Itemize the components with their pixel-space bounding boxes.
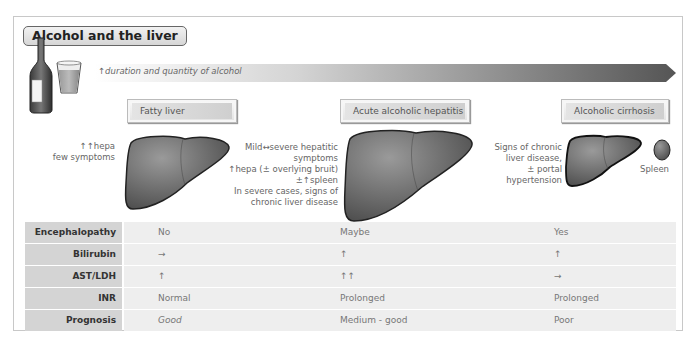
cell-hepatitis: Maybe	[336, 222, 550, 243]
cell-fatty: ↑	[124, 266, 336, 287]
row-label: AST/LDH	[25, 266, 122, 287]
glass-icon	[56, 60, 82, 96]
arrow-label: ↑duration and quantity of alcohol	[98, 66, 242, 76]
row-label: Prognosis	[25, 310, 122, 331]
cell-cirrhosis: →	[550, 266, 676, 287]
fatty-liver-notes: ↑↑hepa few symptoms	[40, 141, 115, 163]
cell-hepatitis: ↑	[336, 244, 550, 265]
table-row: Bilirubin → ↑ ↑	[25, 244, 676, 265]
acute-hepatitis-liver-icon	[342, 127, 476, 223]
acute-hepatitis-notes: Mild↔severe hepatitic symptoms ↑hepa (± …	[228, 142, 338, 208]
spleen-icon	[652, 138, 672, 162]
row-label: Encephalopathy	[25, 222, 122, 243]
wine-bottle-icon	[28, 36, 54, 114]
cirrhosis-liver-icon	[564, 133, 644, 188]
cell-hepatitis: ↑↑	[336, 266, 550, 287]
stage-acute-hepatitis: Acute alcoholic hepatitis	[340, 99, 470, 123]
fatty-liver-icon	[123, 133, 233, 211]
cirrhosis-notes: Signs of chronic liver disease, ± portal…	[480, 142, 562, 186]
cell-cirrhosis: Prolonged	[550, 288, 676, 309]
cell-hepatitis: Prolonged	[336, 288, 550, 309]
comparison-table: Encephalopathy No Maybe Yes Bilirubin → …	[25, 222, 676, 332]
table-row: AST/LDH ↑ ↑↑ →	[25, 266, 676, 287]
cell-fatty: No	[124, 222, 336, 243]
cell-cirrhosis: ↑	[550, 244, 676, 265]
cell-cirrhosis: Poor	[550, 310, 676, 331]
cell-fatty: →	[124, 244, 336, 265]
table-row: Encephalopathy No Maybe Yes	[25, 222, 676, 243]
spleen-label: Spleen	[640, 164, 674, 175]
stage-fatty-liver: Fatty liver	[127, 99, 237, 123]
row-label: INR	[25, 288, 122, 309]
cell-fatty: Good	[124, 310, 336, 331]
cell-fatty: Normal	[124, 288, 336, 309]
table-row: INR Normal Prolonged Prolonged	[25, 288, 676, 309]
stage-cirrhosis: Alcoholic cirrhosis	[561, 99, 669, 123]
row-label: Bilirubin	[25, 244, 122, 265]
cell-hepatitis: Medium - good	[336, 310, 550, 331]
cell-cirrhosis: Yes	[550, 222, 676, 243]
table-row: Prognosis Good Medium - good Poor	[25, 310, 676, 331]
